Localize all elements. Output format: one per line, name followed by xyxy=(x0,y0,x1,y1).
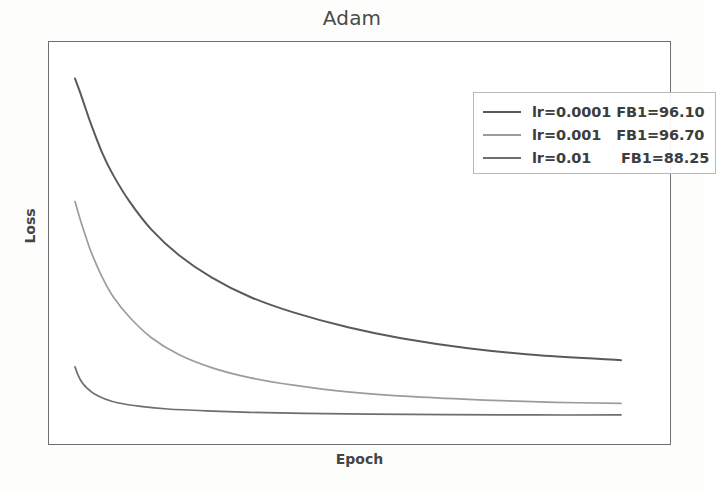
y-axis-label: Loss xyxy=(22,190,38,262)
page-title: Adam xyxy=(0,6,704,30)
legend-lr-0-01-lr: lr=0.01 xyxy=(532,150,591,166)
legend-swatch-lr-0-0001 xyxy=(483,111,521,113)
plot-area: lr=0.0001 FB1=96.10 lr=0.001 FB1=96.70 l… xyxy=(48,41,671,445)
x-axis-label: Epoch xyxy=(48,451,671,467)
series-line-lr-0-01 xyxy=(75,367,621,415)
legend-item-lr-0-0001: lr=0.0001 FB1=96.10 xyxy=(483,100,706,123)
legend-lr-0-0001-lr: lr=0.0001 xyxy=(532,104,611,120)
legend-lr-0-01-fb1: FB1=88.25 xyxy=(621,150,709,166)
legend-label-lr-0-001: lr=0.001 FB1=96.70 xyxy=(532,127,704,143)
series-line-lr-0-001 xyxy=(75,202,621,404)
legend-swatch-lr-0-01 xyxy=(483,157,521,159)
legend-label-lr-0-01: lr=0.01 FB1=88.25 xyxy=(532,150,709,166)
legend-item-lr-0-001: lr=0.001 FB1=96.70 xyxy=(483,123,706,146)
legend-label-lr-0-0001: lr=0.0001 FB1=96.10 xyxy=(532,104,704,120)
legend-item-lr-0-01: lr=0.01 FB1=88.25 xyxy=(483,146,706,169)
legend-lr-0-001-fb1: FB1=96.70 xyxy=(616,127,704,143)
legend-lr-0-001-lr: lr=0.001 xyxy=(532,127,601,143)
legend-lr-0-0001-fb1: FB1=96.10 xyxy=(616,104,704,120)
legend-swatch-lr-0-001 xyxy=(483,134,521,136)
legend: lr=0.0001 FB1=96.10 lr=0.001 FB1=96.70 l… xyxy=(473,92,716,174)
